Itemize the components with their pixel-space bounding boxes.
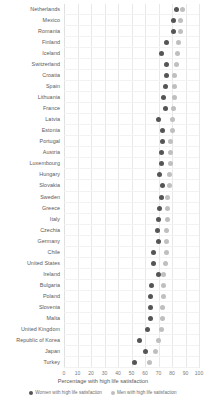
data-point[interactable] [159, 195, 164, 200]
data-point[interactable] [147, 360, 152, 365]
data-point[interactable] [160, 128, 165, 133]
y-axis-label: Lithuania [38, 92, 60, 103]
y-axis-label: Slovenia [39, 302, 60, 313]
y-axis-label: United States [27, 258, 60, 269]
data-row [64, 225, 199, 236]
data-row [64, 4, 199, 15]
y-axis-label: Slovakia [39, 180, 60, 191]
chart-legend: Women with high life satisfaction Men wi… [0, 389, 206, 396]
data-point[interactable] [155, 228, 160, 233]
data-point[interactable] [157, 172, 162, 177]
data-point[interactable] [167, 172, 172, 177]
data-point[interactable] [132, 360, 137, 365]
data-point[interactable] [143, 349, 148, 354]
data-point[interactable] [164, 62, 169, 67]
data-point[interactable] [159, 161, 164, 166]
data-point[interactable] [165, 217, 170, 222]
data-row [64, 92, 199, 103]
data-point[interactable] [164, 228, 169, 233]
data-point[interactable] [156, 117, 161, 122]
data-point[interactable] [148, 316, 153, 321]
data-point[interactable] [171, 29, 176, 34]
data-point[interactable] [151, 261, 156, 266]
data-point[interactable] [145, 327, 150, 332]
data-row [64, 147, 199, 158]
data-point[interactable] [156, 217, 161, 222]
data-point[interactable] [164, 239, 169, 244]
data-point[interactable] [164, 73, 169, 78]
data-row [64, 114, 199, 125]
data-point[interactable] [178, 18, 183, 23]
data-point[interactable] [170, 117, 175, 122]
data-point[interactable] [161, 95, 166, 100]
data-point[interactable] [151, 250, 156, 255]
legend-item-series-1[interactable]: Men with high life satisfaction [111, 390, 177, 395]
data-point[interactable] [168, 161, 173, 166]
data-row [64, 346, 199, 357]
y-axis-label: Spain [46, 81, 60, 92]
data-point[interactable] [175, 51, 180, 56]
y-axis-label: Italy [50, 214, 60, 225]
data-point[interactable] [165, 195, 170, 200]
data-point[interactable] [159, 51, 164, 56]
data-point[interactable] [137, 338, 142, 343]
data-point[interactable] [161, 283, 166, 288]
data-point[interactable] [160, 183, 165, 188]
data-point[interactable] [153, 349, 158, 354]
data-row [64, 81, 199, 92]
data-point[interactable] [156, 272, 161, 277]
data-point[interactable] [159, 150, 164, 155]
data-point[interactable] [171, 106, 176, 111]
data-point[interactable] [156, 338, 161, 343]
data-point[interactable] [148, 294, 153, 299]
data-point[interactable] [161, 294, 166, 299]
data-point[interactable] [160, 305, 165, 310]
data-point[interactable] [149, 283, 154, 288]
data-point[interactable] [160, 139, 165, 144]
y-axis-label: Portugal [39, 136, 60, 147]
legend-item-series-0[interactable]: Women with high life satisfaction [29, 390, 102, 395]
data-point[interactable] [171, 18, 176, 23]
legend-label-series-0: Women with high life satisfaction [35, 390, 102, 395]
data-row [64, 180, 199, 191]
data-point[interactable] [148, 305, 153, 310]
data-point[interactable] [164, 250, 169, 255]
data-point[interactable] [167, 183, 172, 188]
data-point[interactable] [180, 7, 185, 12]
data-point[interactable] [163, 261, 168, 266]
y-axis-label: United Kingdom [21, 324, 60, 335]
data-point[interactable] [161, 272, 166, 277]
x-tick-label: 70 [156, 370, 162, 376]
x-tick-label: 30 [102, 370, 108, 376]
data-row [64, 247, 199, 258]
data-point[interactable] [178, 29, 183, 34]
data-point[interactable] [157, 206, 162, 211]
data-row [64, 48, 199, 59]
data-point[interactable] [170, 128, 175, 133]
data-point[interactable] [168, 150, 173, 155]
data-row [64, 214, 199, 225]
data-point[interactable] [164, 40, 169, 45]
data-point[interactable] [174, 7, 179, 12]
data-point[interactable] [163, 84, 168, 89]
data-row [64, 236, 199, 247]
y-axis-label: Ireland [43, 269, 60, 280]
data-point[interactable] [172, 73, 177, 78]
data-row [64, 192, 199, 203]
data-row [64, 335, 199, 346]
y-axis-label: Estonia [42, 125, 60, 136]
y-axis-label: Chile [47, 247, 60, 258]
data-point[interactable] [168, 139, 173, 144]
data-point[interactable] [163, 106, 168, 111]
x-tick-label: 0 [63, 370, 66, 376]
y-axis-label: Switzerland [32, 59, 60, 70]
data-point[interactable] [160, 316, 165, 321]
data-point[interactable] [174, 62, 179, 67]
data-point[interactable] [156, 239, 161, 244]
data-point[interactable] [176, 40, 181, 45]
data-point[interactable] [172, 84, 177, 89]
data-row [64, 26, 199, 37]
data-point[interactable] [165, 206, 170, 211]
data-point[interactable] [172, 95, 177, 100]
data-point[interactable] [159, 327, 164, 332]
